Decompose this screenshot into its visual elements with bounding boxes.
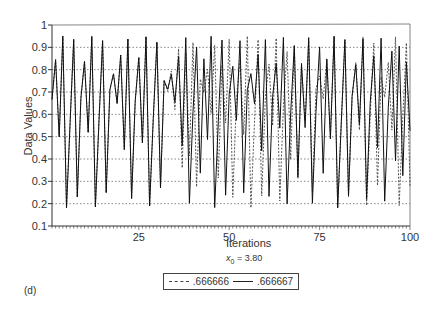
- y-tick-label: 1: [41, 19, 47, 31]
- x-tick-label: 100: [401, 231, 419, 243]
- y-tick-label: 0.9: [32, 41, 47, 53]
- x-tick-label: 75: [313, 231, 325, 243]
- y-axis-label: Data Values: [22, 86, 34, 166]
- subtitle: x0 = 3.80: [226, 253, 262, 265]
- x-axis-label: Iterations: [226, 237, 271, 249]
- y-tick-label: 0.3: [32, 175, 47, 187]
- panel-label: (d): [24, 285, 36, 296]
- y-tick-label: 0.8: [32, 64, 47, 76]
- plot-top-border: [52, 24, 410, 25]
- y-tick-label: 0.1: [32, 220, 47, 232]
- legend: .666666 .666667: [163, 273, 299, 290]
- legend-dashed-swatch: [169, 281, 189, 282]
- x-tick-label: 25: [133, 231, 145, 243]
- series-line-666667: [52, 36, 410, 208]
- y-tick-label: 0.2: [32, 198, 47, 210]
- legend-solid-swatch: [233, 281, 253, 282]
- line-chart: 0.10.20.30.40.50.60.70.80.91255075100: [0, 0, 439, 313]
- legend-label-666666: .666666: [193, 276, 229, 287]
- legend-label-666667: .666667: [257, 276, 293, 287]
- subtitle-rest: = 3.80: [234, 253, 262, 263]
